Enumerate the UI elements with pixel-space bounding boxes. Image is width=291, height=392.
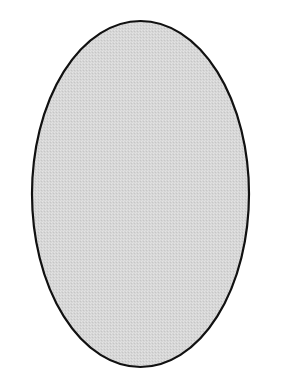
ellipse-shape <box>32 21 249 367</box>
ellipse-figure <box>0 0 291 392</box>
diagram-canvas <box>0 0 291 392</box>
